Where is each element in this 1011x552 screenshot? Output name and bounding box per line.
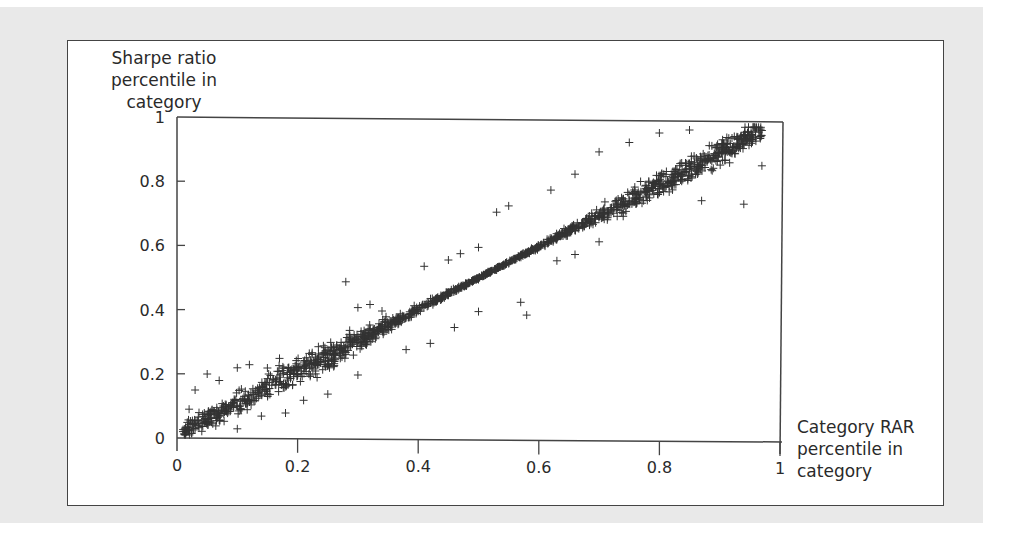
- x-tick-label: 0.8: [647, 458, 672, 477]
- y-tick-label: 0.2: [140, 365, 165, 384]
- x-axis-line: [177, 438, 782, 442]
- scatter-points: [179, 123, 766, 439]
- x-tick-label: 1: [775, 459, 785, 478]
- plot-top-border: [177, 117, 783, 122]
- x-tick-label: 0.4: [405, 457, 430, 476]
- y-tick-label: 0.8: [140, 172, 165, 191]
- y-tick-label: 0.6: [140, 236, 165, 255]
- y-tick-label: 1: [155, 108, 165, 127]
- x-tick-label: 0: [172, 456, 182, 475]
- x-tick-label: 0.6: [526, 458, 551, 477]
- plot-right-border: [780, 122, 783, 454]
- scatter-plot: 00.20.40.60.8100.20.40.60.81: [0, 0, 1011, 552]
- y-tick-label: 0: [155, 429, 165, 448]
- plus-marker: [179, 123, 766, 439]
- y-tick-label: 0.4: [140, 301, 165, 320]
- x-tick-label: 0.2: [285, 457, 310, 476]
